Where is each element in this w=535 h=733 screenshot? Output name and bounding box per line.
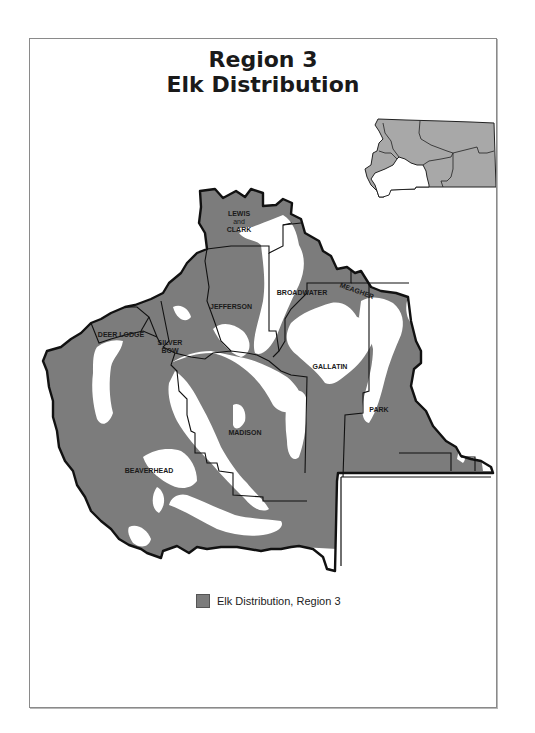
map-legend: Elk Distribution, Region 3 (196, 594, 341, 608)
label-madison: MADISON (228, 429, 261, 436)
inset-montana-map (365, 119, 496, 197)
label-lewis-and-clark-1: LEWIS (228, 210, 250, 217)
legend-label-elk-distribution: Elk Distribution, Region 3 (217, 595, 341, 607)
label-deer-lodge: DEER LODGE (98, 331, 145, 338)
label-silver-bow-2: BOW (161, 347, 179, 354)
label-broadwater: BROADWATER (277, 289, 327, 296)
legend-swatch-elk-distribution (196, 594, 210, 608)
label-silver-bow-1: SILVER (158, 339, 183, 346)
label-jefferson: JEFFERSON (210, 303, 252, 310)
label-park: PARK (369, 406, 388, 413)
park-boundary-line (341, 477, 491, 566)
label-lewis-and-clark-3: CLARK (227, 226, 252, 233)
label-beaverhead: BEAVERHEAD (125, 467, 174, 474)
label-gallatin: GALLATIN (313, 363, 348, 370)
label-lewis-and-clark-2: and (233, 218, 245, 225)
map-frame: Region 3 Elk Distribution (29, 38, 497, 708)
